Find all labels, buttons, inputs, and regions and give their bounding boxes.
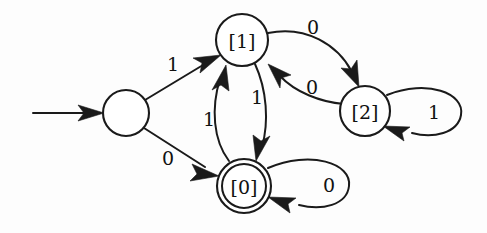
state-node-start[interactable]: [103, 90, 149, 136]
arrow-head-icon: [383, 126, 410, 141]
transition-start-to-1[interactable]: 1: [145, 53, 221, 100]
self-loop-2[interactable]: 1: [383, 88, 461, 141]
transition-label-self-loop-2: 1: [428, 101, 440, 123]
state-start-circle: [103, 90, 149, 136]
transition-label-self-loop-0: 0: [323, 174, 335, 196]
transition-start-to-0[interactable]: 0: [144, 128, 219, 181]
arrow-head-icon: [193, 55, 221, 73]
state-node-1[interactable]: [1]: [216, 14, 268, 66]
transition-label-1-to-2: 0: [307, 16, 319, 38]
transition-label-start-to-0: 0: [162, 147, 174, 169]
automaton-diagram-canvas: 1 0 1 1 0 0: [0, 0, 487, 233]
state-node-0[interactable]: [0]: [217, 159, 271, 213]
arrow-head-icon: [268, 64, 291, 88]
transition-0-to-1-path: [215, 79, 229, 161]
start-arrow: [33, 105, 104, 121]
transition-label-start-to-1: 1: [167, 53, 179, 75]
transition-1-to-0[interactable]: 1: [251, 64, 270, 161]
state-1-label: [1]: [229, 30, 256, 52]
automaton-svg: 1 0 1 1 0 0: [0, 0, 487, 233]
transition-label-2-to-1: 0: [306, 76, 318, 98]
transition-start-to-0-path: [144, 128, 205, 167]
state-node-2[interactable]: [2]: [340, 86, 390, 136]
self-loop-0[interactable]: 0: [268, 160, 349, 213]
state-2-label: [2]: [352, 101, 379, 123]
arrow-head-icon: [341, 60, 359, 87]
state-0-label: [0]: [231, 176, 258, 198]
transition-label-0-to-1: 1: [203, 108, 215, 130]
arrow-head-icon: [253, 135, 270, 161]
arrow-head-icon: [212, 65, 229, 91]
transition-0-to-1[interactable]: 1: [203, 65, 229, 161]
transition-label-1-to-0: 1: [251, 86, 263, 108]
transition-2-to-1[interactable]: 0: [268, 64, 344, 104]
arrow-head-icon: [268, 197, 296, 213]
